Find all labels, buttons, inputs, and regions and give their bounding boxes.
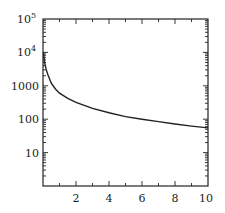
x-label-6: 6 xyxy=(139,192,146,205)
y-label-1e5: 105 xyxy=(17,11,36,26)
x-axis-labels: 2 4 6 8 10 xyxy=(73,192,214,205)
plot-frame xyxy=(43,19,208,186)
y-label-10: 10 xyxy=(25,147,39,160)
x-label-10: 10 xyxy=(199,192,213,205)
x-label-2: 2 xyxy=(73,192,80,205)
y-axis-labels: 105 104 1000 100 10 xyxy=(11,11,39,160)
x-label-4: 4 xyxy=(106,192,113,205)
y-label-100: 100 xyxy=(18,113,39,126)
log-line-chart: 105 104 1000 100 10 2 4 6 8 10 xyxy=(0,0,225,213)
data-line xyxy=(44,52,209,128)
y-label-1000: 1000 xyxy=(11,80,39,93)
y-label-1e4: 104 xyxy=(17,44,36,59)
axis-ticks xyxy=(43,19,208,186)
x-label-8: 8 xyxy=(172,192,179,205)
